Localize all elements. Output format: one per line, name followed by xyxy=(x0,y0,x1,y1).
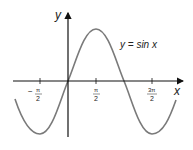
tick-label-neg-pi-2: − π 2 xyxy=(28,87,42,102)
tick-label-3pi-2: 3π 2 xyxy=(147,87,157,102)
svg-text:2: 2 xyxy=(150,95,154,102)
tick-label-pi-2: π 2 xyxy=(93,87,100,102)
svg-text:2: 2 xyxy=(36,95,40,102)
curve-label: y = sin x xyxy=(119,39,158,50)
svg-text:π: π xyxy=(94,87,98,93)
sine-graph: y x y = sin x − π 2 π 2 3π 2 xyxy=(0,0,193,150)
svg-text:−: − xyxy=(28,87,33,96)
x-axis-label: x xyxy=(173,84,181,98)
svg-text:π: π xyxy=(36,87,40,93)
svg-text:3π: 3π xyxy=(148,87,155,93)
y-axis-label: y xyxy=(54,8,62,22)
svg-text:2: 2 xyxy=(94,95,98,102)
